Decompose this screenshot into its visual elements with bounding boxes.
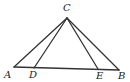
segment-cd (34, 18, 67, 68)
triangle-diagram: C A D E B (0, 0, 130, 82)
segment-cb (67, 18, 119, 70)
label-d: D (28, 69, 37, 80)
label-e: E (95, 70, 104, 81)
label-b: B (117, 70, 125, 81)
label-c: C (63, 2, 71, 13)
label-a: A (3, 69, 11, 80)
segment-ca (14, 18, 67, 67)
